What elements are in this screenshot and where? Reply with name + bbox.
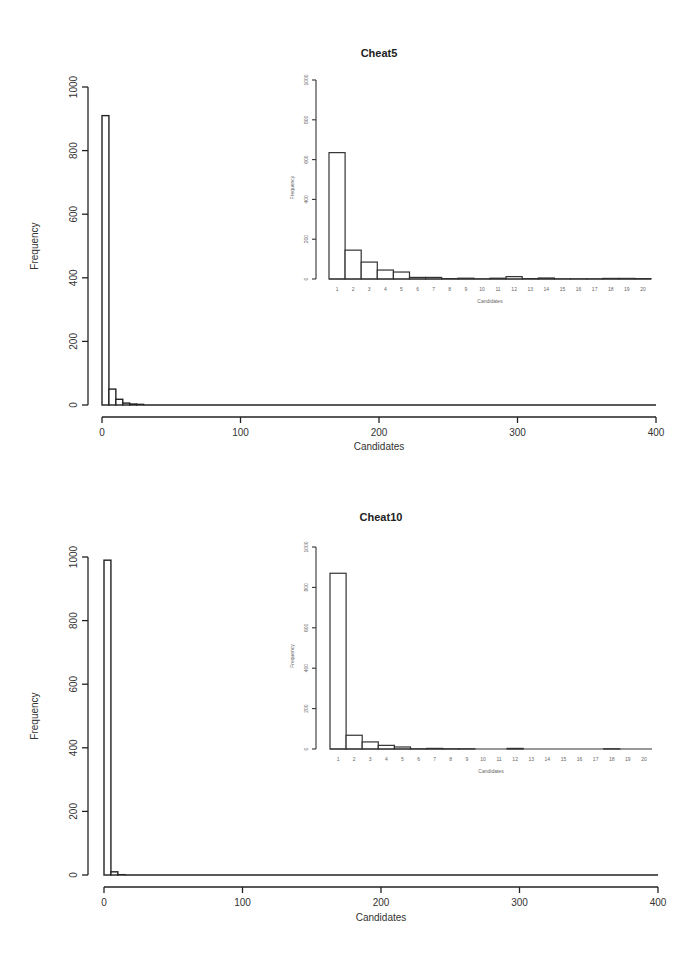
inset-x-tick-label: 2 [352, 286, 355, 292]
y-tick-label: 200 [68, 803, 79, 820]
x-axis: 0100200300400Candidates [101, 887, 667, 923]
inset-x-tick-label: 8 [448, 286, 451, 292]
inset-x-tick-label: 13 [528, 756, 534, 762]
inset-x-tick-label: 18 [609, 756, 615, 762]
inset-x-tick-label: 1 [336, 286, 339, 292]
y-tick-label: 1000 [68, 75, 79, 98]
inset-x-tick-label: 10 [479, 286, 485, 292]
y-tick-label: 400 [68, 739, 79, 756]
x-axis: 0100200300400Candidates [99, 417, 665, 452]
y-tick-label: 600 [68, 205, 79, 222]
inset-x-axis-title: Candidates [478, 768, 504, 774]
inset-y-tick-label: 600 [303, 155, 309, 164]
inset-y-tick-label: 800 [303, 115, 309, 124]
histogram-bar [123, 403, 130, 405]
y-tick-label: 200 [68, 333, 79, 350]
inset-x-tick-label: 11 [495, 286, 500, 292]
inset-bar [329, 153, 345, 279]
x-tick-label: 300 [511, 897, 528, 908]
inset-x-tick-label: 9 [465, 756, 468, 762]
y-tick-label: 800 [68, 142, 79, 159]
inset-x-tick-label: 6 [417, 756, 420, 762]
inset-x-tick-label: 11 [496, 756, 501, 762]
y-tick-label: 1000 [68, 545, 79, 568]
inset-x-tick-label: 17 [592, 286, 598, 292]
histogram-bar [109, 389, 116, 405]
inset-y-tick-label: 0 [303, 747, 309, 750]
inset-x-tick-label: 4 [385, 756, 388, 762]
inset-x-tick-label: 12 [512, 756, 518, 762]
x-tick-label: 400 [650, 897, 667, 908]
inset-histogram: 02004006008001000Frequency12345678910111… [289, 74, 651, 304]
inset-x-tick-label: 14 [545, 756, 551, 762]
inset-x-tick-label: 14 [544, 286, 550, 292]
histogram-bar [102, 116, 109, 405]
y-axis-title: Frequency [29, 692, 40, 739]
y-tick-label: 0 [68, 872, 79, 878]
inset-x-tick-label: 1 [337, 756, 340, 762]
inset-x-tick-label: 5 [400, 286, 403, 292]
inset-y-tick-label: 200 [303, 704, 309, 713]
x-axis-title: Candidates [354, 441, 405, 452]
inset-y-tick-label: 1000 [303, 541, 309, 552]
inset-y-tick-label: 0 [303, 277, 309, 280]
y-tick-label: 400 [68, 269, 79, 286]
histogram-bar [111, 872, 118, 875]
inset-x-tick-label: 15 [561, 756, 567, 762]
x-tick-label: 100 [234, 897, 251, 908]
y-axis-title: Frequency [29, 222, 40, 269]
y-tick-label: 600 [68, 675, 79, 692]
x-tick-label: 0 [99, 427, 105, 438]
x-tick-label: 300 [509, 427, 526, 438]
x-tick-label: 400 [648, 427, 665, 438]
inset-x-tick-label: 16 [576, 286, 582, 292]
inset-bar [393, 272, 409, 279]
inset-bar [330, 573, 346, 749]
inset-x-tick-label: 18 [608, 286, 614, 292]
histogram-bars [104, 560, 658, 875]
inset-y-tick-label: 400 [303, 195, 309, 204]
inset-x-tick-label: 3 [369, 756, 372, 762]
inset-y-axis-title: Frequency [289, 644, 295, 668]
inset-y-tick-label: 600 [303, 623, 309, 632]
histogram-bar [137, 404, 144, 405]
inset-x-tick-label: 19 [624, 286, 630, 292]
inset-x-tick-label: 19 [625, 756, 631, 762]
histogram-bar [130, 404, 137, 405]
y-axis: 02004006008001000Frequency [29, 545, 88, 877]
inset-x-axis-title: Candidates [477, 298, 503, 304]
y-tick-label: 800 [68, 612, 79, 629]
inset-x-tick-label: 6 [416, 286, 419, 292]
inset-x-tick-label: 20 [641, 756, 647, 762]
inset-y-axis-title: Frequency [289, 175, 295, 199]
inset-y-tick-label: 1000 [303, 74, 309, 85]
inset-x-tick-label: 20 [640, 286, 646, 292]
histogram-panel-cheat10: Cheat1002004006008001000Frequency0100200… [29, 511, 667, 923]
x-axis-title: Candidates [356, 912, 407, 923]
x-tick-label: 100 [232, 427, 249, 438]
x-tick-label: 0 [101, 897, 107, 908]
inset-x-tick-label: 16 [577, 756, 583, 762]
inset-bar [346, 735, 362, 749]
inset-y-tick-label: 200 [303, 235, 309, 244]
inset-x-tick-label: 3 [368, 286, 371, 292]
y-tick-label: 0 [68, 402, 79, 408]
histogram-bar [116, 399, 123, 405]
inset-bar [345, 250, 361, 279]
histogram-bars [102, 116, 656, 405]
inset-x-tick-label: 15 [560, 286, 566, 292]
inset-bar [362, 742, 378, 749]
x-tick-label: 200 [371, 427, 388, 438]
inset-bar [377, 270, 393, 279]
x-tick-label: 200 [373, 897, 390, 908]
inset-x-tick-label: 10 [480, 756, 486, 762]
inset-x-tick-label: 9 [464, 286, 467, 292]
chart-title: Cheat5 [361, 47, 398, 59]
inset-x-tick-label: 2 [353, 756, 356, 762]
inset-x-tick-label: 8 [449, 756, 452, 762]
inset-x-tick-label: 7 [433, 756, 436, 762]
inset-histogram: 02004006008001000Frequency12345678910111… [289, 541, 652, 774]
histogram-bar [104, 560, 111, 875]
histogram-figure: Cheat502004006008001000Frequency01002003… [0, 0, 698, 969]
inset-x-tick-label: 13 [527, 286, 533, 292]
